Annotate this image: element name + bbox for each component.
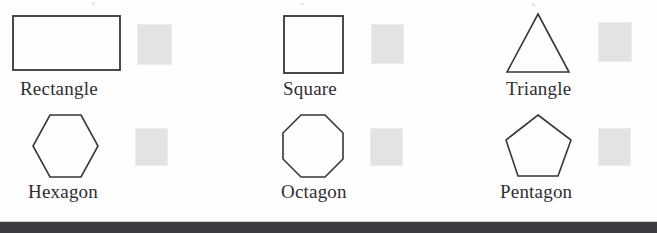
square-color-swatch[interactable] (371, 24, 404, 64)
hexagon-shape (31, 113, 101, 180)
triangle-shape (506, 12, 572, 75)
scan-artifact-speck (532, 3, 535, 6)
square-label: Square (283, 78, 337, 100)
scan-artifact-speck (300, 3, 304, 5)
worksheet-page: Rectangle Square Triangle Hexagon (0, 0, 657, 233)
octagon-shape (281, 113, 347, 180)
rectangle-color-swatch[interactable] (137, 24, 172, 65)
rectangle-label: Rectangle (20, 78, 98, 100)
octagon-color-swatch[interactable] (370, 128, 403, 166)
hexagon-color-swatch[interactable] (135, 128, 168, 166)
pentagon-color-swatch[interactable] (598, 128, 631, 166)
scan-artifact-speck (92, 2, 95, 5)
pentagon-label: Pentagon (500, 181, 572, 203)
pentagon-shape (504, 113, 574, 179)
square-shape (283, 15, 345, 75)
rectangle-shape (12, 15, 122, 72)
page-bottom-edge-bar (0, 222, 657, 233)
hexagon-label: Hexagon (28, 181, 98, 203)
triangle-label: Triangle (506, 78, 571, 100)
triangle-color-swatch[interactable] (598, 22, 632, 62)
octagon-label: Octagon (281, 181, 347, 203)
